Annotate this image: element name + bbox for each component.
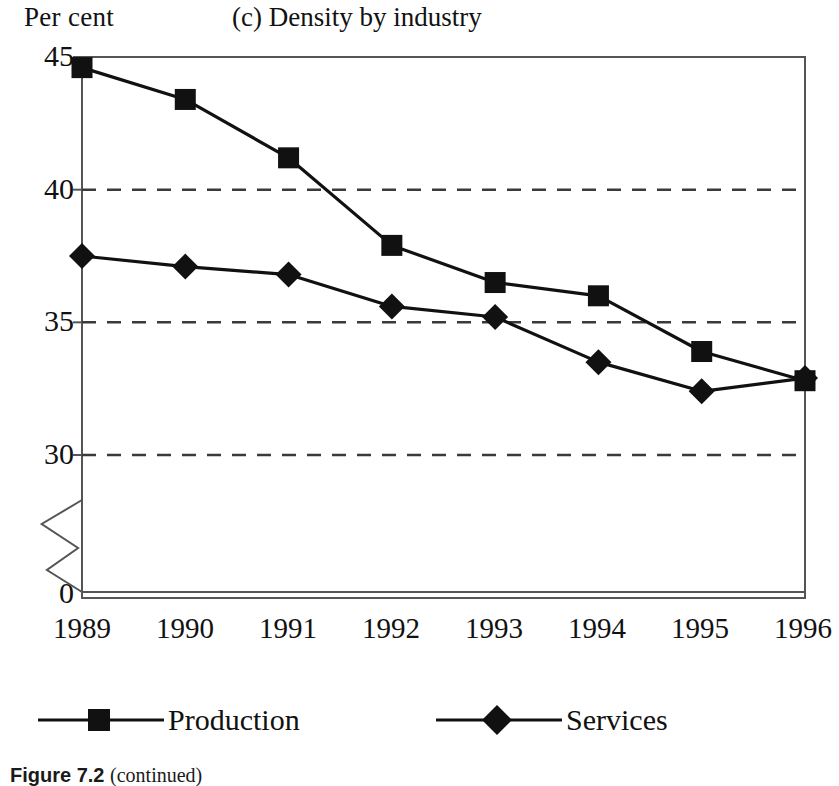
- square-marker-icon: [36, 703, 166, 737]
- chart-legend: Production Services: [0, 694, 839, 750]
- diamond-data-point: [482, 304, 508, 330]
- legend-label-services: Services: [566, 703, 668, 737]
- plot-frame: [82, 57, 805, 598]
- figure-caption: Figure 7.2 (continued): [10, 764, 202, 786]
- diamond-data-point: [585, 349, 611, 375]
- data-series: [69, 57, 818, 404]
- legend-label-production: Production: [168, 703, 300, 737]
- square-data-point: [691, 341, 712, 362]
- diamond-data-point: [689, 378, 715, 404]
- diamond-marker-icon: [434, 703, 564, 737]
- square-data-point: [72, 57, 93, 78]
- figure-caption-label: Figure 7.2: [10, 764, 104, 786]
- square-data-point: [278, 147, 299, 168]
- legend-item-services: Services: [434, 700, 668, 740]
- diamond-data-point: [379, 293, 405, 319]
- grid-lines: [82, 190, 805, 455]
- diamond-data-point: [172, 254, 198, 280]
- square-data-point: [485, 272, 506, 293]
- square-data-point: [588, 285, 609, 306]
- square-data-point: [175, 89, 196, 110]
- diamond-data-point: [69, 243, 95, 269]
- diamond-data-point: [276, 262, 302, 288]
- square-data-point: [381, 235, 402, 256]
- axis-break-zigzag: [42, 500, 805, 592]
- figure-caption-note: (continued): [110, 764, 202, 786]
- legend-item-production: Production: [36, 700, 300, 740]
